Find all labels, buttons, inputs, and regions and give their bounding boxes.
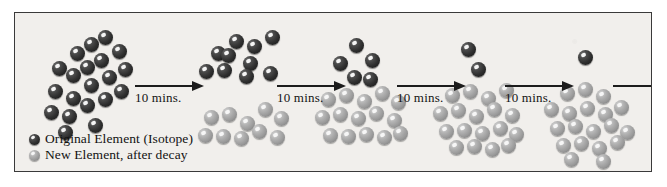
diagram-panel: 10 mins.10 mins.10 mins.10 mins. Origina…: [14, 12, 652, 172]
decayed-element-atom: [604, 118, 619, 133]
decayed-element-atom: [574, 136, 589, 151]
legend-label-new: New Element, after decay: [45, 147, 188, 163]
decayed-element-atom: [596, 89, 611, 104]
dark-sphere-icon: [29, 134, 40, 145]
decayed-element-atom: [578, 82, 593, 97]
decayed-element-atom: [550, 121, 565, 136]
decayed-element-atom: [580, 101, 595, 116]
step-duration-label: 10 mins.: [277, 90, 323, 106]
decayed-element-atom: [596, 154, 611, 169]
original-isotope-atom: [578, 50, 593, 65]
arrow-shaft: [135, 85, 193, 87]
legend-label-original: Original Element (Isotope): [45, 131, 193, 147]
legend: Original Element (Isotope) New Element, …: [29, 131, 193, 163]
decayed-element-atom: [610, 135, 625, 150]
step-duration-label: 10 mins.: [397, 90, 443, 106]
arrow-head-icon: [192, 81, 204, 91]
arrow-head-icon: [334, 81, 346, 91]
legend-item-new: New Element, after decay: [29, 147, 193, 163]
step-duration-label: 10 mins.: [505, 90, 551, 106]
decayed-element-atom: [568, 119, 583, 134]
legend-item-original: Original Element (Isotope): [29, 131, 193, 147]
arrow-shaft: [277, 85, 335, 87]
arrow-head-icon: [454, 81, 466, 91]
decay-diagram: 10 mins.10 mins.10 mins.10 mins. Origina…: [0, 0, 667, 187]
arrow-head-icon: [562, 81, 574, 91]
decayed-element-atom: [564, 152, 579, 167]
decayed-element-atom: [614, 100, 629, 115]
arrow-shaft: [505, 85, 563, 87]
decayed-element-atom: [556, 138, 571, 153]
step-duration-label: 10 mins.: [135, 90, 181, 106]
arrow-shaft: [613, 85, 652, 87]
light-sphere-icon: [29, 150, 40, 161]
decayed-element-atom: [586, 124, 601, 139]
arrow-shaft: [397, 85, 455, 87]
